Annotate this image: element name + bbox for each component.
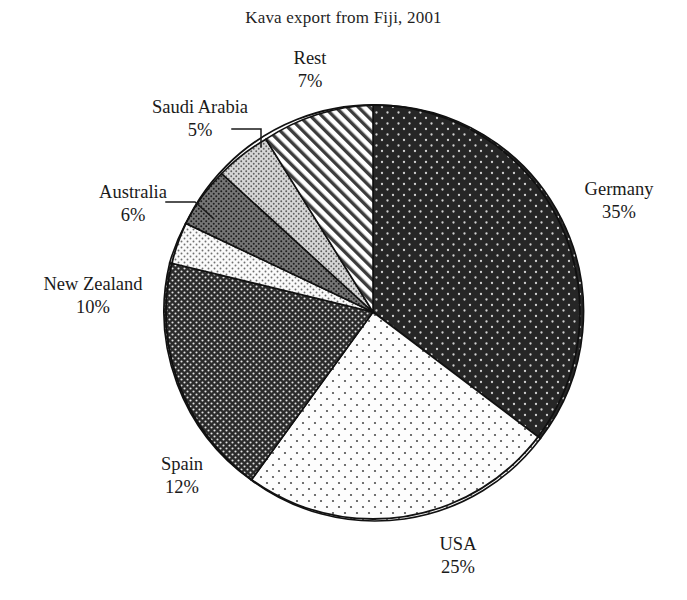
pie-label-australia: Australia 6%	[72, 181, 194, 226]
pie-label-germany: Germany 35%	[555, 178, 683, 223]
pie-label-rest-value: 7%	[254, 70, 366, 93]
pie-label-rest: Rest 7%	[254, 47, 366, 92]
pie-label-usa-name: USA	[398, 533, 518, 556]
pie-label-new-zealand: New Zealand 10%	[18, 273, 168, 318]
pie-label-saudi-arabia-value: 5%	[124, 119, 276, 142]
pie-label-spain-name: Spain	[123, 453, 241, 476]
pie-label-spain: Spain 12%	[123, 453, 241, 498]
pie-label-germany-name: Germany	[555, 178, 683, 201]
pie-label-australia-value: 6%	[72, 204, 194, 227]
pie-label-new-zealand-value: 10%	[18, 296, 168, 319]
pie-label-saudi-arabia: Saudi Arabia 5%	[124, 96, 276, 141]
pie-label-spain-value: 12%	[123, 476, 241, 499]
pie-label-australia-name: Australia	[72, 181, 194, 204]
pie-label-usa: USA 25%	[398, 533, 518, 578]
pie-label-new-zealand-name: New Zealand	[18, 273, 168, 296]
pie-label-usa-value: 25%	[398, 556, 518, 579]
pie-label-germany-value: 35%	[555, 201, 683, 224]
pie-label-saudi-arabia-name: Saudi Arabia	[124, 96, 276, 119]
pie-chart-figure: Kava export from Fiji, 2001	[0, 0, 687, 600]
pie-label-rest-name: Rest	[254, 47, 366, 70]
